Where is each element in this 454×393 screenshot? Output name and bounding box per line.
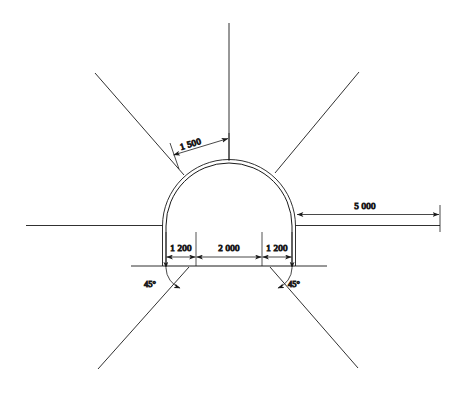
angle-label-left: 45° [144, 279, 156, 289]
angle-label-right: 45° [288, 279, 300, 289]
technical-drawing-canvas: 1 500 1 200 2 000 1 200 5 000 45° 45° [0, 0, 454, 393]
angle-annotations-left: 45° [144, 268, 180, 289]
dimension-label-right-1200: 1 200 [266, 243, 288, 253]
dimension-label-left-1200: 1 200 [170, 243, 192, 253]
tunnel-section-svg: 1 500 1 200 2 000 1 200 5 000 45° 45° [0, 0, 454, 393]
floor-dimension-chain: 1 200 2 000 1 200 [166, 232, 292, 266]
radial-rays [95, 23, 359, 369]
dimension-label-5000: 5 000 [354, 201, 376, 211]
ray-lower-right [270, 267, 358, 368]
ray-upper-right [275, 72, 359, 173]
radius-ext-line-left [170, 143, 179, 169]
ray-upper-left [95, 73, 184, 175]
offset-dimension-5000: 5 000 [297, 201, 440, 232]
angle-annotations-right: 45° [278, 268, 300, 289]
dimension-label-center-2000: 2 000 [218, 243, 240, 253]
